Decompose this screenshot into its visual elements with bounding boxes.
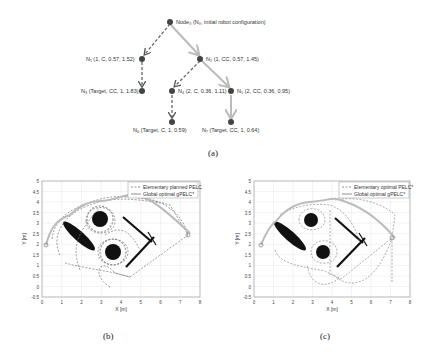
legend-item-elementary: Elementary planned PELC xyxy=(143,184,202,190)
obstacle-ellipse xyxy=(60,218,98,254)
search-tree-diagram xyxy=(0,0,435,170)
edge-n2-n4 xyxy=(175,61,200,86)
svg-text:1: 1 xyxy=(36,263,39,268)
svg-text:0.5: 0.5 xyxy=(33,274,40,279)
svg-text:-0.5: -0.5 xyxy=(31,295,39,300)
obstacle-circle-lower xyxy=(105,244,121,260)
svg-text:4.5: 4.5 xyxy=(245,190,252,195)
node-n0-label: Node₀ (N₀, initial robot configuration) xyxy=(176,19,266,25)
y-axis-label: Y [m] xyxy=(235,233,240,245)
y-ticks: 5 4.5 4 3.5 3 2.5 2 1.5 1 0.5 0 -0.5 xyxy=(31,179,39,300)
node-n5-label: N₅ (2, CC, 0.36, 0.95) xyxy=(237,88,290,94)
y-ticks: 5 4.5 4 3.5 3 2.5 2 1.5 1 0.5 0 -0.5 xyxy=(243,179,251,300)
obstacle-wall-upper xyxy=(123,217,152,242)
edge-n2-n5-optimal xyxy=(202,61,228,86)
svg-text:2.5: 2.5 xyxy=(33,232,40,237)
svg-text:8: 8 xyxy=(409,300,412,305)
svg-text:2: 2 xyxy=(80,300,83,305)
svg-text:0: 0 xyxy=(253,300,256,305)
svg-text:5: 5 xyxy=(36,179,39,184)
caption-b: (b) xyxy=(103,331,114,341)
obstacle-wall-lower xyxy=(337,238,365,267)
svg-text:2: 2 xyxy=(292,300,295,305)
node-n4 xyxy=(169,88,175,94)
svg-text:5: 5 xyxy=(248,179,251,184)
obstacle-circle-upper xyxy=(92,211,108,227)
x-ticks: 0 1 2 3 4 5 6 7 8 xyxy=(253,300,412,305)
svg-text:4: 4 xyxy=(248,200,251,205)
node-n2 xyxy=(197,56,203,62)
svg-text:0: 0 xyxy=(36,285,39,290)
svg-text:3: 3 xyxy=(311,300,314,305)
svg-text:1.5: 1.5 xyxy=(245,253,252,258)
svg-text:1.5: 1.5 xyxy=(33,253,40,258)
plot-b: Elementary planned PELC Global optimal g… xyxy=(20,175,220,320)
obstacle-ellipse xyxy=(271,218,309,254)
node-n3-label: N₃ (Target, CC, 1, 1.83) xyxy=(81,88,139,94)
node-n2-label: N₂ (1, CC, 0.57, 1.45) xyxy=(206,56,259,62)
svg-text:0.5: 0.5 xyxy=(245,274,252,279)
legend-item-global: Global optimal gPELC* xyxy=(143,191,194,197)
legend-item-elementary: Elementary optimal PELC* xyxy=(354,184,413,190)
svg-text:2: 2 xyxy=(36,242,39,247)
caption-c: (c) xyxy=(320,331,330,341)
obstacle-circle-upper xyxy=(304,213,318,227)
svg-text:7: 7 xyxy=(179,300,182,305)
svg-text:1: 1 xyxy=(272,300,275,305)
x-axis-label: X [m] xyxy=(326,306,338,312)
node-n7-label: N₇ (Target, CC, 1, 0.64) xyxy=(202,127,259,133)
svg-text:4.5: 4.5 xyxy=(33,190,40,195)
svg-text:7: 7 xyxy=(389,300,392,305)
global-optimal-path xyxy=(261,199,395,245)
x-axis-label: X [m] xyxy=(115,306,127,312)
caption-a: (a) xyxy=(208,148,218,158)
svg-text:2: 2 xyxy=(248,242,251,247)
svg-text:0: 0 xyxy=(248,285,251,290)
node-n4-label: N₄ (2, C, 0.36, 1.11) xyxy=(178,88,227,94)
node-n1 xyxy=(139,56,145,62)
grid xyxy=(42,181,200,297)
svg-text:3.5: 3.5 xyxy=(33,211,40,216)
svg-text:6: 6 xyxy=(159,300,162,305)
svg-text:6: 6 xyxy=(370,300,373,305)
x-ticks: 0 1 2 3 4 5 6 7 8 xyxy=(41,300,202,305)
svg-text:0: 0 xyxy=(41,300,44,305)
node-n0 xyxy=(167,19,173,25)
node-n1-label: N₁ (1, C, 0.57, 1.52) xyxy=(86,56,135,62)
elementary-pelc-paths xyxy=(52,197,188,287)
svg-text:3: 3 xyxy=(248,221,251,226)
svg-text:4: 4 xyxy=(120,300,123,305)
svg-text:-0.5: -0.5 xyxy=(243,295,251,300)
node-n6 xyxy=(169,119,175,125)
obstacle-circle-lower xyxy=(316,245,330,259)
y-axis-label: Y [m] xyxy=(21,233,27,245)
node-n5 xyxy=(228,88,234,94)
svg-text:5: 5 xyxy=(350,300,353,305)
svg-text:2.5: 2.5 xyxy=(245,232,252,237)
legend-item-global: Global optimal gPELC* xyxy=(354,191,405,197)
node-n7 xyxy=(228,119,234,125)
edge-n0-n1 xyxy=(145,24,170,54)
plot-c: Elementary optimal PELC* Global optimal … xyxy=(235,175,435,320)
svg-text:1: 1 xyxy=(248,263,251,268)
svg-text:1: 1 xyxy=(60,300,63,305)
svg-text:3.5: 3.5 xyxy=(245,211,252,216)
svg-text:5: 5 xyxy=(139,300,142,305)
svg-text:8: 8 xyxy=(199,300,202,305)
svg-text:4: 4 xyxy=(331,300,334,305)
svg-text:4: 4 xyxy=(36,200,39,205)
legend: Elementary optimal PELC* Global optimal … xyxy=(339,182,413,198)
node-n3 xyxy=(139,88,145,94)
svg-text:3: 3 xyxy=(36,221,39,226)
svg-text:3: 3 xyxy=(100,300,103,305)
edge-n0-n2-optimal xyxy=(170,24,198,54)
node-n6-label: N₆ (Target, C, 1, 0.59) xyxy=(133,127,187,133)
legend: Elementary planned PELC Global optimal g… xyxy=(128,182,202,198)
